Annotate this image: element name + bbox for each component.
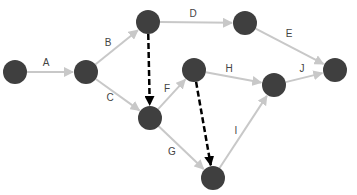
activity-label-h: H <box>225 63 232 74</box>
activity-label-c: C <box>106 92 113 103</box>
event-node-n5 <box>182 58 206 82</box>
event-node-n1 <box>3 60 27 84</box>
event-node-n9 <box>201 166 225 190</box>
nodes-layer <box>3 10 347 190</box>
activity-label-b: B <box>105 37 112 48</box>
activity-label-g: G <box>168 146 176 157</box>
activity-label-e: E <box>286 28 293 39</box>
activity-arrow-i <box>220 96 267 168</box>
activity-label-d: D <box>189 8 196 19</box>
event-node-n8 <box>138 106 162 130</box>
activity-label-i: I <box>235 125 238 136</box>
dummy-activity-arrow <box>148 34 149 105</box>
activity-arrow-b <box>95 30 138 64</box>
activity-label-a: A <box>43 57 50 68</box>
activity-arrow-d <box>160 22 232 23</box>
event-node-n2 <box>74 60 98 84</box>
activity-arrow-j <box>286 73 323 82</box>
event-node-n4 <box>233 11 257 35</box>
activity-arrow-g <box>159 126 204 169</box>
activity-network-diagram: ABCDEFGHIJ <box>0 0 357 195</box>
activity-arrow-f <box>158 80 185 110</box>
dummy-activity-arrow <box>196 82 211 165</box>
activity-label-f: F <box>164 83 170 94</box>
activity-arrow-h <box>206 72 261 82</box>
activity-arrow-c <box>96 79 140 110</box>
event-node-n7 <box>323 58 347 82</box>
event-node-n6 <box>262 73 286 97</box>
event-node-n3 <box>136 10 160 34</box>
activity-label-j: J <box>300 63 305 74</box>
